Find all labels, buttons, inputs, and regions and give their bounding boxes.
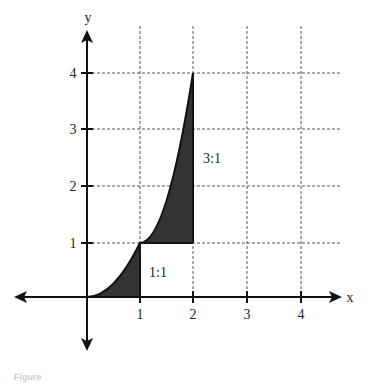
figure-caption: Figure (14, 372, 42, 382)
y-tick-label: 2 (70, 179, 77, 194)
x-tick-label: 4 (298, 307, 305, 322)
region-1-1 (87, 243, 140, 297)
x-axis-label: x (347, 290, 354, 305)
graph: 1 2 3 4 1 2 3 4 x y 1:1 3:1 (0, 0, 370, 384)
region-label-1-1: 1:1 (149, 265, 167, 280)
y-tick-label: 3 (70, 122, 77, 137)
x-tick-label: 2 (190, 307, 197, 322)
y-axis-label: y (85, 10, 92, 25)
x-tick-label: 1 (137, 307, 144, 322)
region-label-3-1: 3:1 (203, 151, 221, 166)
x-tick-label: 3 (244, 307, 251, 322)
region-3-1 (140, 73, 193, 243)
y-tick-label: 1 (70, 236, 77, 251)
y-tick-label: 4 (70, 66, 77, 81)
